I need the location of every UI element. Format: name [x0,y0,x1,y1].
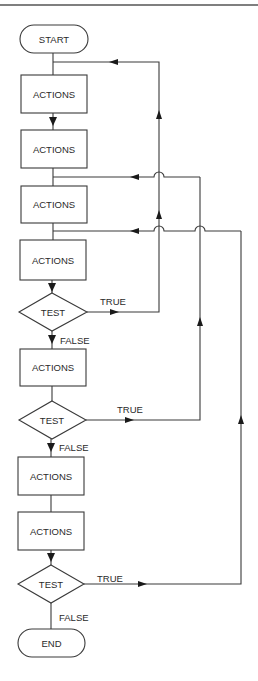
false-label-2: FALSE [59,442,89,453]
arrow-right-icon [125,417,134,423]
arrow-up-icon [156,110,162,119]
actions-box-6[interactable]: ACTIONS [18,457,84,495]
arrow-right-icon [138,581,147,587]
arrow-down-icon [48,283,56,292]
arrow-left-icon [130,228,139,234]
actions-box-5[interactable]: ACTIONS [20,349,86,386]
test-diamond-3[interactable]: TEST [18,565,84,603]
flowchart-canvas: START ACTIONS ACTIONS ACTIONS ACTIONS TE… [0,0,258,681]
arrow-left-icon [109,59,118,65]
arrow-up-icon [197,317,203,326]
end-terminal[interactable]: END [18,629,85,657]
arrow-down-icon [47,553,55,562]
arrow-up-icon [156,210,162,219]
actions-box-3[interactable]: ACTIONS [21,186,87,223]
actions-label: ACTIONS [33,199,75,210]
end-label: END [41,638,61,649]
test-label: TEST [41,307,65,318]
test-label: TEST [40,415,64,426]
actions-label: ACTIONS [30,526,72,537]
test-label: TEST [39,579,63,590]
arrow-down-icon [49,117,57,126]
arrow-up-icon [238,415,244,424]
arrow-down-icon [48,335,56,344]
arrow-down-icon [47,443,55,452]
actions-label: ACTIONS [30,471,72,482]
false-label-1: FALSE [60,335,90,346]
start-terminal[interactable]: START [20,25,88,53]
false-label-3: FALSE [59,612,89,623]
actions-box-4[interactable]: ACTIONS [20,240,86,280]
actions-label: ACTIONS [33,89,75,100]
true-label-2: TRUE [117,404,143,415]
test-diamond-1[interactable]: TEST [19,293,87,331]
actions-box-7[interactable]: ACTIONS [18,512,84,550]
test-diamond-2[interactable]: TEST [19,401,86,439]
true-label-3: TRUE [97,573,123,584]
start-label: START [39,34,69,45]
actions-box-1[interactable]: ACTIONS [21,75,87,113]
actions-box-2[interactable]: ACTIONS [21,130,87,168]
arrow-right-icon [110,309,119,315]
actions-label: ACTIONS [33,144,75,155]
actions-label: ACTIONS [32,362,74,373]
true-label-1: TRUE [100,296,126,307]
actions-label: ACTIONS [32,255,74,266]
arrow-left-icon [130,174,139,180]
